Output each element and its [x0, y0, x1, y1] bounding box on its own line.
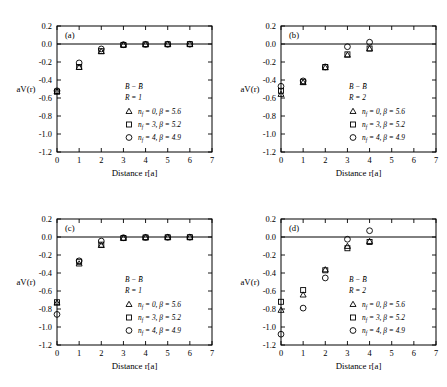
y-tick-label: 0.2 [42, 22, 52, 31]
legend-entry-label: nf = 0, β = 5.6 [362, 300, 405, 310]
x-tick-label: 7 [210, 349, 214, 358]
y-tick-label: 0.2 [266, 215, 276, 224]
y-tick-label: -1.0 [39, 130, 52, 139]
legend-entry: nf = 0, β = 5.6 [126, 107, 181, 117]
panel-tag: (d) [289, 223, 299, 233]
x-tick-label: 2 [323, 156, 327, 165]
y-tick-label: -0.8 [263, 112, 276, 121]
y-tick-label: -1.2 [263, 341, 276, 350]
x-tick-label: 3 [345, 349, 349, 358]
x-tick-label: 6 [412, 349, 416, 358]
y-tick-label: 0.0 [42, 233, 52, 242]
x-tick-label: 4 [143, 156, 148, 165]
y-tick-label: -0.2 [263, 58, 276, 67]
y-tick-label: 0.0 [42, 40, 52, 49]
y-tick-label: -0.4 [263, 269, 277, 278]
x-tick-label: 4 [367, 156, 372, 165]
chart-panel-c: 012345670.20.0-0.2-0.4-0.6-0.8-1.0-1.2(c… [0, 193, 223, 386]
y-tick-label: -1.0 [39, 323, 52, 332]
legend-entry-label: nf = 4, β = 4.9 [362, 133, 405, 143]
chart-panel-d: 012345670.20.0-0.2-0.4-0.6-0.8-1.0-1.2(d… [224, 193, 447, 386]
legend-marker-square-icon [351, 315, 356, 320]
y-tick-label: -0.2 [263, 251, 276, 260]
y-tick-label: -0.4 [263, 76, 277, 85]
legend-entry-label: nf = 0, β = 5.6 [138, 107, 181, 117]
legend-marker-square-icon [127, 122, 132, 127]
y-tick-label: -0.4 [39, 76, 53, 85]
y-tick-label: -1.0 [263, 323, 276, 332]
legend-channel-label: B − B̄ [349, 275, 367, 284]
x-tick-label: 2 [99, 349, 103, 358]
x-tick-label: 6 [412, 156, 416, 165]
x-tick-label: 3 [121, 156, 125, 165]
legend-marker-circle-icon [126, 328, 132, 334]
panel-tag: (b) [289, 30, 299, 40]
legend-entry: nf = 4, β = 4.9 [126, 326, 181, 336]
x-tick-label: 4 [367, 349, 372, 358]
x-tick-label: 0 [55, 156, 59, 165]
legend-entry: nf = 3, β = 5.2 [127, 120, 182, 130]
x-tick-label: 6 [188, 156, 192, 165]
plot-area-b: 012345670.20.0-0.2-0.4-0.6-0.8-1.0-1.2(b… [224, 0, 447, 193]
legend-radius-label: R = 2 [348, 286, 366, 295]
plot-area-d: 012345670.20.0-0.2-0.4-0.6-0.8-1.0-1.2(d… [224, 193, 447, 386]
y-tick-label: -0.2 [39, 251, 52, 260]
y-tick-label: -0.8 [39, 305, 52, 314]
y-axis-title: aV(r) [240, 84, 259, 94]
x-tick-label: 2 [323, 349, 327, 358]
y-tick-label: 0.2 [42, 215, 52, 224]
y-axis-title: aV(r) [16, 84, 35, 94]
x-tick-label: 7 [434, 349, 438, 358]
data-point-circle [367, 228, 373, 234]
panel-tag: (a) [65, 30, 75, 40]
legend-radius-label: R = 2 [348, 93, 366, 102]
legend-marker-square-icon [127, 315, 132, 320]
x-tick-label: 5 [390, 349, 394, 358]
x-tick-label: 1 [301, 156, 305, 165]
y-tick-label: -0.6 [263, 94, 276, 103]
x-tick-label: 3 [345, 156, 349, 165]
y-tick-label: -0.8 [263, 305, 276, 314]
legend-entry: nf = 4, β = 4.9 [126, 133, 181, 143]
x-axis-title: Distance r[a] [112, 361, 158, 371]
y-tick-label: -0.6 [39, 94, 52, 103]
legend-entry-label: nf = 4, β = 4.9 [138, 133, 181, 143]
legend-entry-label: nf = 0, β = 5.6 [362, 107, 405, 117]
legend-marker-triangle-icon [126, 108, 132, 113]
legend-entry: nf = 0, β = 5.6 [350, 107, 405, 117]
data-point-circle [300, 305, 306, 311]
y-tick-label: -0.4 [39, 269, 53, 278]
x-tick-label: 1 [77, 156, 81, 165]
y-tick-label: 0.2 [266, 22, 276, 31]
chart-panel-b: 012345670.20.0-0.2-0.4-0.6-0.8-1.0-1.2(b… [224, 0, 447, 193]
legend-entry: nf = 4, β = 4.9 [350, 326, 405, 336]
y-tick-label: -1.0 [263, 130, 276, 139]
legend-entry-label: nf = 3, β = 5.2 [362, 313, 405, 323]
x-tick-label: 0 [279, 156, 283, 165]
legend-marker-circle-icon [126, 135, 132, 141]
y-tick-label: -0.8 [39, 112, 52, 121]
y-axis-title: aV(r) [240, 277, 259, 287]
plot-area-a: 012345670.20.0-0.2-0.4-0.6-0.8-1.0-1.2(a… [0, 0, 223, 193]
legend-entry: nf = 3, β = 5.2 [351, 120, 406, 130]
legend-entry-label: nf = 4, β = 4.9 [138, 326, 181, 336]
legend-entry: nf = 0, β = 5.6 [350, 300, 405, 310]
y-tick-label: -0.2 [39, 58, 52, 67]
y-tick-label: -1.2 [263, 148, 276, 157]
legend-entry: nf = 4, β = 4.9 [350, 133, 405, 143]
legend-entry: nf = 0, β = 5.6 [126, 300, 181, 310]
x-tick-label: 3 [121, 349, 125, 358]
legend-marker-circle-icon [350, 328, 356, 334]
y-tick-label: -1.2 [39, 341, 52, 350]
x-tick-label: 4 [143, 349, 148, 358]
y-tick-label: 0.0 [266, 233, 276, 242]
x-axis-title: Distance r[a] [336, 361, 382, 371]
legend-radius-label: R = 1 [124, 93, 142, 102]
legend-entry-label: nf = 0, β = 5.6 [138, 300, 181, 310]
x-tick-label: 7 [434, 156, 438, 165]
x-tick-label: 0 [279, 349, 283, 358]
legend-marker-circle-icon [350, 135, 356, 141]
legend-marker-triangle-icon [350, 301, 356, 306]
legend-radius-label: R = 1 [124, 286, 142, 295]
legend-entry: nf = 3, β = 5.2 [127, 313, 182, 323]
